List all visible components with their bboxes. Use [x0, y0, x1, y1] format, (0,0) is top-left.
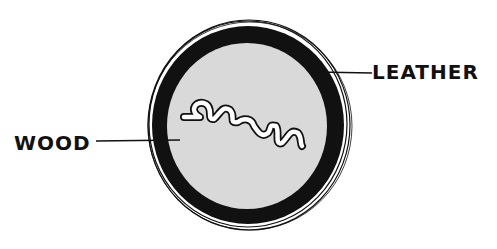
- wood-leader-line: [96, 140, 180, 141]
- leather-label: LEATHER: [372, 60, 479, 84]
- cross-section-diagram: [0, 0, 497, 249]
- wood-core: [167, 43, 327, 209]
- leather-leader-line: [316, 72, 372, 73]
- wood-label: WOOD: [14, 131, 91, 155]
